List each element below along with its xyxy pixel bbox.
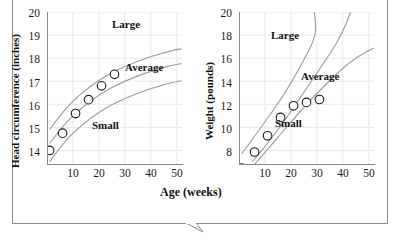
weight-x-tick-40: 40 xyxy=(332,168,354,180)
head-x-tick-30: 30 xyxy=(114,168,136,180)
head-y-tick-15: 15 xyxy=(18,124,40,136)
head-x-tick-40: 40 xyxy=(140,168,162,180)
head-chart-plot-area xyxy=(47,12,182,164)
weight-chart-y-axis-line xyxy=(239,12,240,164)
head-x-tick-50: 50 xyxy=(166,168,188,180)
head-y-tick-14: 14 xyxy=(18,147,40,159)
head-y-tick-16: 16 xyxy=(18,101,40,113)
shared-x-axis-title: Age (weeks) xyxy=(160,186,222,198)
weight-chart-plot-area xyxy=(239,12,374,164)
weight-curve-label-large: Large xyxy=(271,30,299,41)
weight-chart: Weight (pounds) 20 18 16 14 12 10 8 xyxy=(195,0,400,241)
weight-x-tick-20: 20 xyxy=(280,168,302,180)
weight-y-tick-16: 16 xyxy=(210,54,232,66)
head-y-tick-18: 18 xyxy=(18,54,40,66)
growth-charts-figure: Head circumference (inches) 20 19 18 17 … xyxy=(0,0,400,241)
head-circumference-chart: Head circumference (inches) 20 19 18 17 … xyxy=(0,0,200,241)
head-curve-label-small: Small xyxy=(92,120,119,131)
head-curve-label-large: Large xyxy=(112,19,140,30)
weight-x-tick-10: 10 xyxy=(254,168,276,180)
weight-y-tick-10: 10 xyxy=(210,124,232,136)
head-y-tick-19: 19 xyxy=(18,31,40,43)
weight-y-tick-8: 8 xyxy=(210,147,232,159)
head-y-tick-20: 20 xyxy=(18,8,40,20)
weight-chart-x-axis-line xyxy=(239,164,375,165)
weight-curve-label-small: Small xyxy=(275,118,302,129)
head-x-tick-10: 10 xyxy=(62,168,84,180)
head-y-tick-17: 17 xyxy=(18,78,40,90)
weight-curve-label-average: Average xyxy=(301,71,339,82)
weight-x-tick-50: 50 xyxy=(358,168,380,180)
weight-y-tick-18: 18 xyxy=(210,31,232,43)
weight-y-tick-20: 20 xyxy=(210,8,232,20)
weight-y-tick-14: 14 xyxy=(210,78,232,90)
weight-x-tick-30: 30 xyxy=(306,168,328,180)
head-chart-y-axis-line xyxy=(47,12,48,164)
head-curve-label-average: Average xyxy=(125,62,163,73)
weight-y-tick-12: 12 xyxy=(210,101,232,113)
head-chart-x-axis-line xyxy=(47,164,183,165)
head-x-tick-20: 20 xyxy=(88,168,110,180)
